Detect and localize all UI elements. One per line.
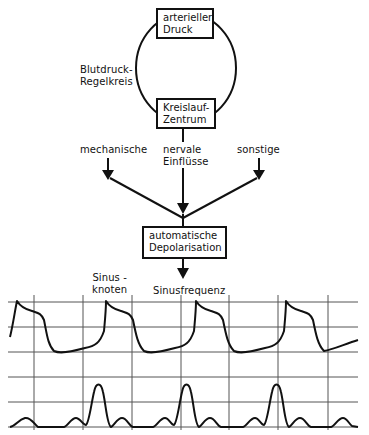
arterial-pressure-box: arterieller Druck <box>156 8 214 39</box>
sinus-node-label: Sinus - knoten <box>92 272 127 296</box>
circulation-center-box: Kreislauf- Zentrum <box>156 98 216 129</box>
label-line: Einflüsse <box>163 156 209 168</box>
other-label: sonstige <box>237 144 280 156</box>
box-line: arterieller <box>163 12 207 24</box>
label-line: Regelkreis <box>80 76 133 88</box>
neural-label: nervale Einflüsse <box>163 144 209 168</box>
label-line: nervale <box>163 144 209 156</box>
label-line: knoten <box>92 284 127 296</box>
mechanical-merge-line <box>110 178 183 218</box>
pulse-trace <box>10 385 358 428</box>
label-line: Sinus - <box>92 272 127 284</box>
label-line: Blutdruck- <box>80 64 133 76</box>
box-line: Depolarisation <box>149 242 220 254</box>
loop-label: Blutdruck- Regelkreis <box>80 64 133 88</box>
neural-arrow-head <box>177 203 189 214</box>
box-line: automatische <box>149 230 220 242</box>
grid <box>8 295 358 430</box>
output-arrow-head <box>177 268 189 279</box>
box-line: Druck <box>163 24 207 36</box>
mechanical-label: mechanische <box>80 144 147 156</box>
box-line: Kreislauf- <box>163 102 209 114</box>
box-line: Zentrum <box>163 114 209 126</box>
automatic-depolarisation-box: automatische Depolarisation <box>142 226 227 259</box>
other-merge-line <box>183 178 257 218</box>
diagram-canvas <box>0 0 369 435</box>
sinus-frequency-label: Sinusfrequenz <box>153 285 225 297</box>
